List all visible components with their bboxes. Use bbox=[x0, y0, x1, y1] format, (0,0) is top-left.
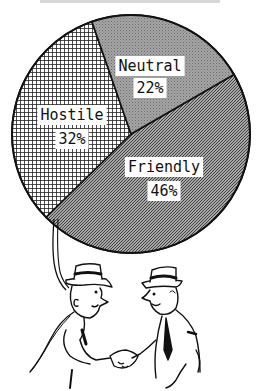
pie-label-hostile: Hostile bbox=[40, 106, 103, 124]
handshake bbox=[110, 350, 138, 368]
pie-value-friendly: 46% bbox=[150, 182, 177, 200]
left-man-figure bbox=[30, 264, 122, 388]
right-man-figure bbox=[132, 267, 200, 388]
left-man-hat bbox=[66, 278, 112, 287]
pie-value-neutral: 22% bbox=[136, 79, 163, 97]
pie-label-friendly: Friendly bbox=[128, 158, 200, 176]
pie-chart-illustration: Friendly46%Hostile32%Neutral22% bbox=[0, 0, 261, 391]
cropped-caption bbox=[40, 0, 220, 3]
pie-value-hostile: 32% bbox=[58, 130, 85, 148]
pie-chart bbox=[12, 15, 250, 253]
pie-label-neutral: Neutral bbox=[118, 57, 181, 75]
